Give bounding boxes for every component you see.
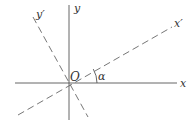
x-prime-axis [18, 27, 172, 115]
y-prime-axis-label: y′ [35, 8, 45, 21]
angle-label: α [98, 70, 106, 83]
origin-label: O [70, 70, 80, 84]
y-axis-label: y [73, 2, 81, 15]
x-axis-label: x [180, 77, 187, 90]
x-prime-axis-label: x′ [174, 17, 183, 30]
rotated-axes-diagram: y y′ x′ x O α [0, 0, 192, 126]
